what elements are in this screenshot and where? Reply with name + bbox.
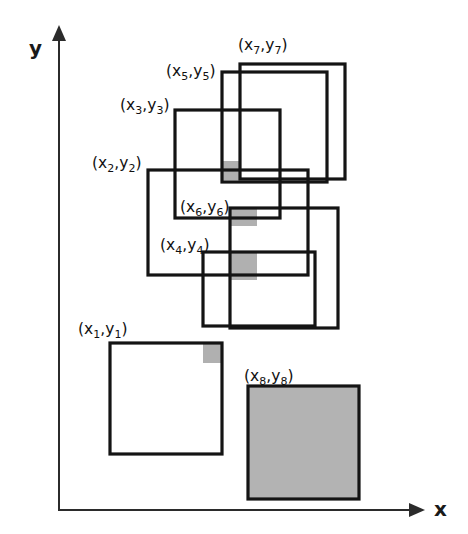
y-axis-label: y	[29, 36, 42, 60]
rectangle-overlap-diagram: y x (x1,y1)(x2,y2)(x3,y3)(x4,y4)(x5,y5)(…	[0, 0, 468, 534]
point-label-8: (x8,y8)	[244, 367, 293, 388]
y-axis-arrow-icon	[52, 25, 66, 41]
point-label-6: (x6,y6)	[180, 198, 229, 219]
rectangle-4	[203, 252, 315, 326]
x-axis-label: x	[434, 497, 447, 521]
point-label-layer: (x1,y1)(x2,y2)(x3,y3)(x4,y4)(x5,y5)(x6,y…	[78, 36, 293, 388]
point-label-2: (x2,y2)	[92, 154, 141, 175]
point-label-5: (x5,y5)	[166, 62, 215, 83]
rectangle-2	[148, 170, 308, 275]
diagram-canvas: y x (x1,y1)(x2,y2)(x3,y3)(x4,y4)(x5,y5)(…	[0, 0, 468, 534]
rectangle-8	[248, 386, 359, 499]
point-label-7: (x7,y7)	[238, 36, 287, 57]
rectangle-7	[240, 64, 345, 179]
x-axis-arrow-icon	[409, 503, 425, 517]
point-label-4: (x4,y4)	[160, 236, 209, 257]
point-label-3: (x3,y3)	[120, 96, 169, 117]
point-label-1: (x1,y1)	[78, 320, 127, 341]
rectangle-layer	[110, 64, 359, 499]
overlap-patch	[203, 343, 222, 363]
